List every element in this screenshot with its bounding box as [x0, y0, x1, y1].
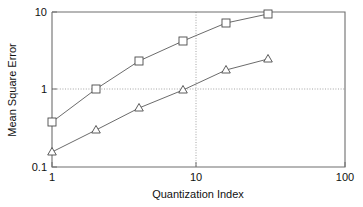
y-axis-title: Mean Square Error: [6, 43, 18, 137]
square-marker: [179, 37, 187, 45]
ytick-label-1: 1: [41, 83, 47, 95]
square-marker: [264, 10, 272, 18]
xtick-label-10: 10: [190, 171, 202, 183]
xtick-label-100: 100: [336, 171, 354, 183]
square-marker: [222, 19, 230, 27]
xtick-label-1: 1: [49, 171, 55, 183]
square-marker: [135, 57, 143, 65]
ytick-label-0.1: 0.1: [32, 161, 47, 173]
square-marker: [48, 118, 56, 126]
x-axis-title: Quantization Index: [152, 188, 244, 200]
chart-figure: 10 1 0.1 1 10 100 Quantization Index Mea…: [0, 0, 363, 207]
mean-square-error-line-chart: 10 1 0.1 1 10 100 Quantization Index Mea…: [0, 0, 363, 207]
ytick-label-10: 10: [35, 6, 47, 18]
square-marker: [92, 85, 100, 93]
